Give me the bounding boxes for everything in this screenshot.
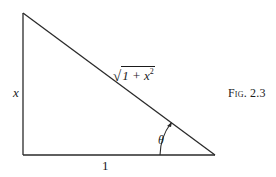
- hypotenuse: [23, 13, 215, 155]
- radicand-base: 1 + x: [122, 68, 150, 83]
- angle-arrowhead: [167, 122, 172, 127]
- side-label-x: x: [13, 86, 19, 99]
- radicand-exponent: 2: [150, 67, 154, 76]
- radicand: 1 + x2: [121, 66, 155, 82]
- hypotenuse-label: √1 + x2: [113, 66, 155, 84]
- angle-label-theta: θ: [158, 134, 164, 146]
- figure-caption: Fig. 2.3: [228, 87, 266, 99]
- side-label-1: 1: [102, 159, 109, 172]
- sqrt-symbol: √: [113, 69, 121, 84]
